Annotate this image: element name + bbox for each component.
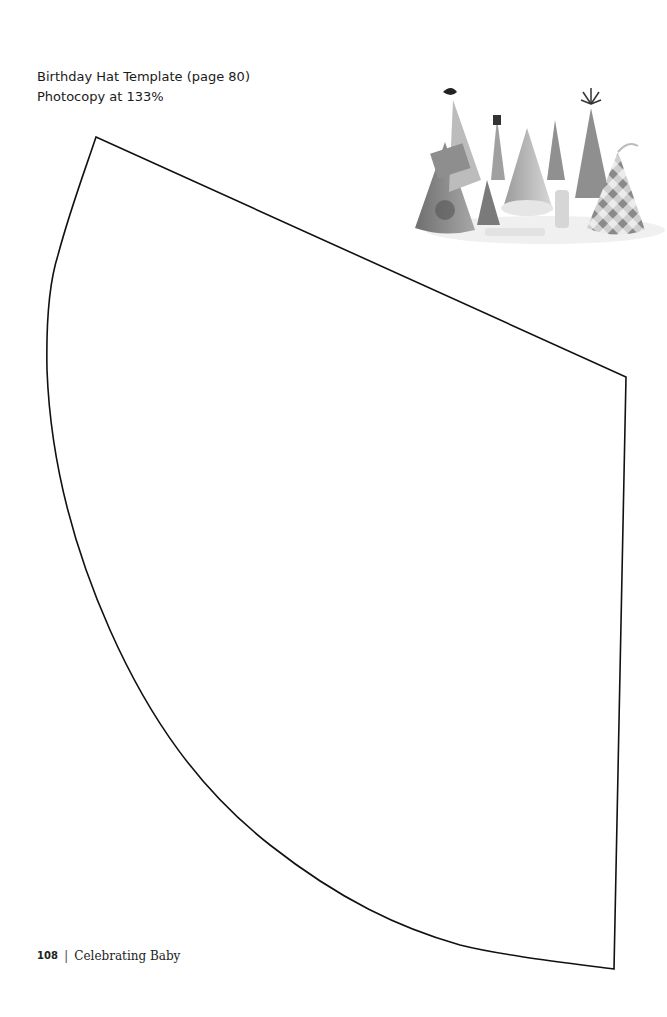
page-number: 108 (37, 950, 58, 961)
book-title: Celebrating Baby (74, 949, 180, 963)
party-hats-photo (405, 80, 667, 250)
footer-separator: | (64, 948, 68, 963)
page-footer: 108 | Celebrating Baby (37, 948, 180, 963)
